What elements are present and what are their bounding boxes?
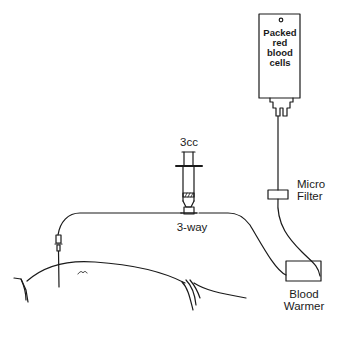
- patient-outline-icon: [14, 262, 246, 310]
- blood-bag-label: Packed red blood cells: [255, 28, 305, 68]
- blood-warmer-label: Blood Warmer: [282, 288, 326, 312]
- tube-filter-to-warmer: [278, 199, 320, 276]
- blood-warmer-label-line-2: Warmer: [282, 300, 326, 312]
- three-way-label: 3-way: [172, 221, 212, 233]
- blood-bag-label-line-4: cells: [255, 58, 305, 68]
- micro-filter-label: Micro Filter: [297, 178, 325, 202]
- blood-warmer-icon: [286, 261, 321, 281]
- micro-filter-label-line-1: Micro: [297, 178, 325, 190]
- blood-warmer-label-line-1: Blood: [282, 288, 326, 300]
- tube-warmer-to-stopcock: [199, 213, 286, 275]
- transfusion-setup-diagram: Packed red blood cells Micro Filter Bloo…: [0, 0, 339, 341]
- syringe-icon: [176, 152, 202, 207]
- micro-filter-label-line-2: Filter: [297, 190, 325, 202]
- micro-filter-icon: [268, 190, 288, 199]
- syringe-label: 3cc: [172, 136, 206, 148]
- iv-catheter-icon: [55, 235, 62, 287]
- tube-stopcock-to-patient: [58, 213, 181, 235]
- three-way-stopcock-icon: [181, 207, 197, 214]
